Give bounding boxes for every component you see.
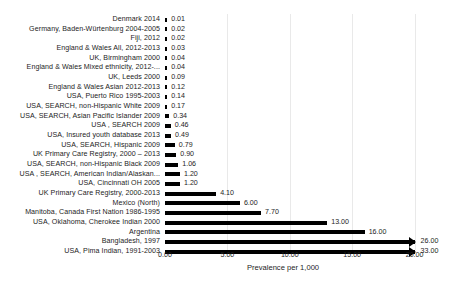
bar[interactable] bbox=[165, 56, 167, 60]
bar[interactable] bbox=[165, 182, 180, 186]
bar[interactable] bbox=[165, 95, 167, 99]
bar[interactable] bbox=[165, 172, 180, 176]
bar[interactable] bbox=[165, 37, 167, 41]
bar[interactable] bbox=[165, 76, 167, 80]
x-axis-title-text: Prevalence per 1,000 bbox=[247, 263, 319, 272]
bar[interactable] bbox=[165, 163, 178, 167]
x-axis-tick-label: 10.00 bbox=[270, 250, 310, 260]
bar[interactable] bbox=[165, 114, 169, 118]
bar[interactable] bbox=[165, 230, 365, 234]
bar[interactable] bbox=[165, 47, 167, 51]
x-axis-tick-label: 15.00 bbox=[332, 250, 372, 260]
bar[interactable] bbox=[165, 201, 240, 205]
bar[interactable] bbox=[165, 66, 167, 70]
x-axis-title: Prevalence per 1,000 bbox=[0, 263, 450, 272]
bar[interactable] bbox=[165, 153, 176, 157]
horizontal-bar-chart: Denmark 20140.01Germany, Baden-Würtenbur… bbox=[0, 0, 450, 282]
bar[interactable] bbox=[165, 211, 261, 215]
x-axis-tick-label: 5.00 bbox=[207, 250, 247, 260]
bar[interactable] bbox=[165, 27, 167, 31]
bar[interactable] bbox=[165, 240, 415, 244]
bar[interactable] bbox=[165, 124, 171, 128]
bar[interactable] bbox=[165, 192, 216, 196]
bar[interactable] bbox=[165, 221, 327, 225]
x-axis-tick-label: 0.00 bbox=[145, 250, 185, 260]
bar[interactable] bbox=[165, 143, 175, 147]
bar[interactable] bbox=[165, 105, 167, 109]
bar[interactable] bbox=[165, 85, 167, 89]
x-axis-tick-label: 20.00 bbox=[395, 250, 435, 260]
bar[interactable] bbox=[165, 134, 171, 138]
bar[interactable] bbox=[165, 18, 167, 22]
